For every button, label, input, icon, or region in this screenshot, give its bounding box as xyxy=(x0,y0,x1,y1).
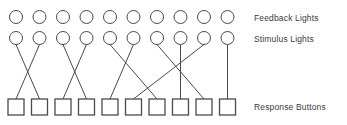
response-button-2[interactable] xyxy=(32,99,48,115)
feedback-light-5[interactable] xyxy=(104,11,117,24)
response-button-6[interactable] xyxy=(126,99,142,115)
response-buttons-label: Response Buttons xyxy=(254,102,326,112)
response-button-8[interactable] xyxy=(173,99,189,115)
stimulus-light-8[interactable] xyxy=(174,32,187,45)
response-button-4[interactable] xyxy=(79,99,95,115)
response-button-1[interactable] xyxy=(8,99,24,115)
feedback-lights-label: Feedback Lights xyxy=(254,13,319,23)
stimulus-light-3[interactable] xyxy=(57,32,70,45)
feedback-light-8[interactable] xyxy=(174,11,187,24)
response-button-7[interactable] xyxy=(149,99,165,115)
response-button-5[interactable] xyxy=(102,99,118,115)
feedback-light-7[interactable] xyxy=(151,11,164,24)
feedback-light-1[interactable] xyxy=(10,11,23,24)
stimulus-light-4[interactable] xyxy=(80,32,93,45)
feedback-light-10[interactable] xyxy=(221,11,234,24)
stimulus-lights-group xyxy=(10,32,235,45)
response-button-9[interactable] xyxy=(196,99,212,115)
stimulus-light-9[interactable] xyxy=(198,32,211,45)
stimulus-light-6[interactable] xyxy=(127,32,140,45)
feedback-light-3[interactable] xyxy=(57,11,70,24)
diagram-container: Feedback Lights Stimulus Lights Response… xyxy=(0,0,347,125)
feedback-light-6[interactable] xyxy=(127,11,140,24)
stimulus-light-7[interactable] xyxy=(151,32,164,45)
connection-stimulus-6-to-button-5 xyxy=(110,45,134,100)
feedback-light-9[interactable] xyxy=(198,11,211,24)
feedback-light-2[interactable] xyxy=(33,11,46,24)
feedback-light-4[interactable] xyxy=(80,11,93,24)
stimulus-light-1[interactable] xyxy=(10,32,23,45)
stimulus-light-5[interactable] xyxy=(104,32,117,45)
response-button-3[interactable] xyxy=(55,99,71,115)
stimulus-lights-label: Stimulus Lights xyxy=(254,34,314,44)
connection-lines-group xyxy=(16,45,228,100)
stimulus-light-2[interactable] xyxy=(33,32,46,45)
feedback-lights-group xyxy=(10,11,235,24)
response-buttons-group xyxy=(8,99,236,115)
stimulus-light-10[interactable] xyxy=(221,32,234,45)
response-button-10[interactable] xyxy=(220,99,236,115)
connection-stimulus-9-to-button-6 xyxy=(134,45,205,100)
connection-stimulus-5-to-button-7 xyxy=(110,45,157,100)
